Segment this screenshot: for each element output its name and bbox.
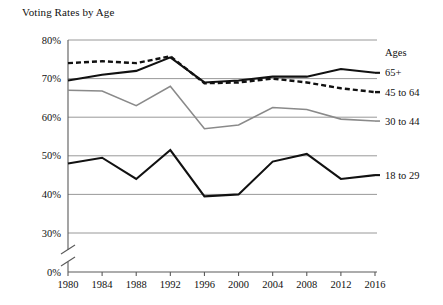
x-tick-label: 1988 bbox=[126, 279, 147, 290]
x-tick-label: 2012 bbox=[330, 279, 351, 290]
chart-legend: Ages65+45 to 6430 to 4418 to 29 bbox=[375, 47, 420, 181]
series-line-18-to-29 bbox=[68, 150, 375, 196]
x-tick-label: 2004 bbox=[262, 279, 284, 290]
x-tick-label: 1992 bbox=[160, 279, 181, 290]
legend-label-30-to-44: 30 to 44 bbox=[385, 116, 420, 127]
y-tick-label: 80% bbox=[42, 35, 62, 46]
legend-title: Ages bbox=[385, 47, 407, 58]
x-axis-tick-labels: 1980198419881992199620002004200820122016 bbox=[58, 279, 386, 290]
x-tick-label: 1996 bbox=[194, 279, 215, 290]
x-tick-label: 1984 bbox=[92, 279, 114, 290]
legend-label-65-: 65+ bbox=[385, 67, 402, 78]
x-tick-label: 1980 bbox=[58, 279, 79, 290]
y-tick-label: 70% bbox=[42, 73, 62, 84]
y-tick-label: 50% bbox=[42, 150, 62, 161]
voting-rates-chart: Voting Rates by Age 80%70%60%50%40%30%0%… bbox=[0, 0, 443, 305]
x-axis bbox=[61, 40, 377, 276]
y-tick-label: 30% bbox=[42, 228, 62, 239]
x-tick-label: 2016 bbox=[365, 279, 386, 290]
gridlines bbox=[68, 40, 377, 233]
legend-label-18-to-29: 18 to 29 bbox=[385, 170, 419, 181]
series-line-30-to-44 bbox=[68, 86, 375, 128]
legend-label-45-to-64: 45 to 64 bbox=[385, 87, 420, 98]
data-series-group bbox=[68, 56, 375, 196]
chart-plot-area: 80%70%60%50%40%30%0% 1980198419881992199… bbox=[0, 0, 443, 305]
x-tick-label: 2000 bbox=[228, 279, 249, 290]
y-axis-tick-labels: 80%70%60%50%40%30%0% bbox=[42, 35, 62, 278]
y-tick-label: 60% bbox=[42, 112, 62, 123]
x-tick-label: 2008 bbox=[296, 279, 317, 290]
y-tick-label: 0% bbox=[47, 267, 61, 278]
y-tick-label: 40% bbox=[42, 189, 62, 200]
